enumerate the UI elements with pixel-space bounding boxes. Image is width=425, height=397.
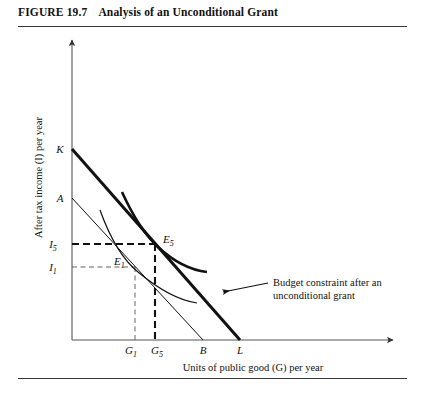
equilibrium-label-E5-sub: 5 (170, 239, 174, 248)
y-tick-label-I5: I5 (48, 238, 57, 253)
y-tick-label-I1: I1 (48, 261, 57, 276)
x-tick-label-G1: G1 (125, 344, 137, 359)
equilibrium-label-E1-sub: 1 (121, 261, 125, 270)
indifference-curve-high (122, 192, 207, 272)
x-tick-label-G5: G5 (151, 344, 163, 359)
y-tick-label-I1-sub: 1 (53, 267, 57, 276)
x-tick-label-G1-sub: 1 (133, 350, 137, 359)
annotation-line-2: unconditional grant (273, 290, 355, 301)
annotation-leader-line (223, 283, 268, 292)
x-axis-label: Units of public good (G) per year (183, 362, 324, 374)
axis-tick-labels-group: K A I5 I1 G1 G5 B L (48, 143, 243, 359)
equilibrium-label-E5: E5 (162, 233, 174, 248)
chart-canvas: After tax income (I) per year Units of p… (0, 0, 425, 397)
annotation-line-1: Budget constraint after an (273, 277, 383, 288)
x-tick-label-L: L (236, 344, 243, 356)
equilibrium-label-E1: E1 (113, 255, 125, 270)
y-axis-label: After tax income (I) per year (33, 117, 45, 238)
x-tick-label-G5-main: G (151, 344, 159, 356)
y-tick-label-I5-sub: 5 (53, 244, 57, 253)
y-tick-label-A: A (56, 192, 64, 204)
y-tick-label-K: K (55, 143, 64, 155)
figure-container: FIGURE 19.7Analysis of an Unconditional … (0, 0, 425, 397)
x-tick-label-G1-main: G (125, 344, 133, 356)
budget-annotation-group: Budget constraint after an unconditional… (223, 277, 383, 301)
x-tick-label-G5-sub: 5 (159, 350, 163, 359)
x-tick-label-B: B (200, 344, 207, 356)
